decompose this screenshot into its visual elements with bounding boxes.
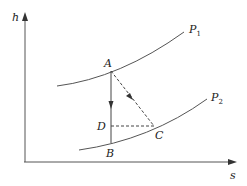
point-a-label: A xyxy=(103,57,112,70)
isobar-p1-curve xyxy=(57,32,184,86)
arrow-diag-icon xyxy=(126,93,133,100)
point-b-label: B xyxy=(105,147,114,160)
point-c-label: C xyxy=(155,129,164,142)
x-axis-arrow-icon xyxy=(228,159,237,165)
process-a-c xyxy=(111,71,154,126)
p1-label: P1 xyxy=(188,23,201,38)
point-d-label: D xyxy=(96,120,106,133)
x-axis-label: s xyxy=(230,169,236,182)
hs-diagram: h s P1 P2 A D C B xyxy=(0,0,247,186)
arrow-down-icon xyxy=(109,101,114,109)
p2-label: P2 xyxy=(210,91,223,106)
y-axis-label: h xyxy=(12,11,19,24)
y-axis-arrow-icon xyxy=(22,12,28,21)
